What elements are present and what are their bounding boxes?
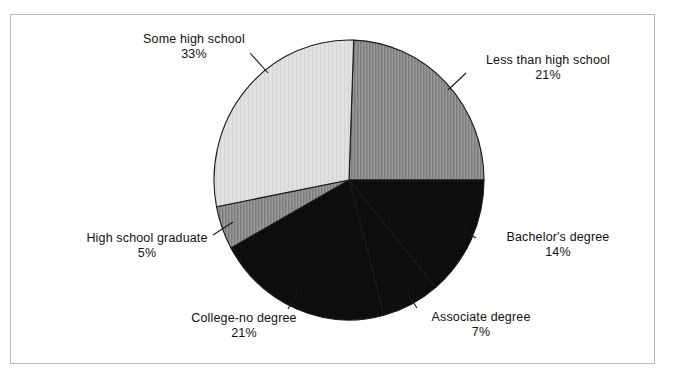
pie-label-associate-degree: Associate degree 7% (406, 310, 556, 339)
pie-label-college-no-degree: College-no degree 21% (163, 311, 325, 340)
pie-slice (214, 40, 354, 207)
pie-label-college-no-degree-percent: 21% (163, 326, 325, 341)
pie-label-some-high-school: Some high school 33% (111, 32, 277, 61)
pie-label-less-than-high-school-name: Less than high school (455, 53, 641, 68)
pie-label-some-high-school-percent: 33% (111, 47, 277, 62)
pie-label-high-school-graduate: High school graduate 5% (56, 231, 238, 260)
pie-slice-group (214, 40, 484, 320)
pie-label-associate-degree-name: Associate degree (406, 310, 556, 325)
pie-label-high-school-graduate-name: High school graduate (56, 231, 238, 246)
pie-label-less-than-high-school: Less than high school 21% (455, 53, 641, 82)
pie-chart: Some high school 33% Less than high scho… (0, 0, 673, 382)
pie-label-associate-degree-percent: 7% (406, 325, 556, 340)
pie-label-bachelors-degree-name: Bachelor's degree (478, 230, 638, 245)
pie-label-bachelors-degree: Bachelor's degree 14% (478, 230, 638, 259)
pie-label-less-than-high-school-percent: 21% (455, 68, 641, 83)
pie-label-bachelors-degree-percent: 14% (478, 245, 638, 260)
pie-label-high-school-graduate-percent: 5% (56, 246, 238, 261)
pie-label-college-no-degree-name: College-no degree (163, 311, 325, 326)
pie-label-some-high-school-name: Some high school (111, 32, 277, 47)
